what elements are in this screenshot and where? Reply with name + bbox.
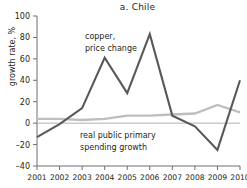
y-tick-label: –40 [16, 162, 30, 171]
y-tick-label: 60 [20, 55, 30, 64]
annotation-copper-line2: price change [85, 44, 137, 53]
x-tick-label: 2002 [50, 173, 69, 182]
annotation-spending-line1: real public primary [80, 131, 156, 140]
annotation-spending-line2: spending growth [80, 143, 147, 152]
chart-container: a. Chile growth rate, % 100806040200–20–… [0, 0, 247, 188]
x-axis-ticks: 2001200220032004200520062007200820092010 [27, 166, 247, 182]
y-tick-label: –20 [16, 141, 30, 150]
y-tick-label: 40 [20, 76, 30, 85]
y-axis-ticks: 100806040200–20–40 [15, 12, 37, 171]
x-tick-label: 2005 [118, 173, 137, 182]
x-tick-label: 2007 [163, 173, 182, 182]
plot-area: 100806040200–20–40 200120022003200420052… [0, 0, 247, 188]
x-tick-label: 2010 [230, 173, 247, 182]
x-tick-label: 2006 [140, 173, 159, 182]
y-tick-label: 100 [15, 12, 30, 21]
x-tick-label: 2004 [95, 173, 114, 182]
y-tick-label: 80 [20, 33, 30, 42]
x-tick-label: 2001 [27, 173, 46, 182]
x-tick-label: 2008 [185, 173, 204, 182]
annotation-copper-line1: copper, [85, 32, 115, 41]
y-tick-label: 20 [20, 98, 30, 107]
x-tick-label: 2003 [72, 173, 91, 182]
x-tick-label: 2009 [208, 173, 227, 182]
y-tick-label: 0 [25, 119, 30, 128]
